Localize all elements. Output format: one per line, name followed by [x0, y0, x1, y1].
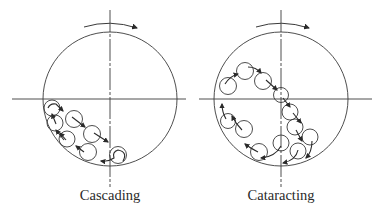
cataracting-label: Cataracting: [248, 187, 315, 204]
mill-diagram: [0, 0, 383, 217]
cataracting-panel: [199, 10, 372, 187]
motion-arrows: [48, 104, 125, 161]
grinding-balls: [220, 63, 319, 161]
cascading-label: Cascading: [80, 187, 140, 204]
rotation-arrow-icon: [84, 23, 137, 28]
rotation-arrow-icon: [256, 23, 309, 28]
cascading-panel: [12, 10, 186, 187]
